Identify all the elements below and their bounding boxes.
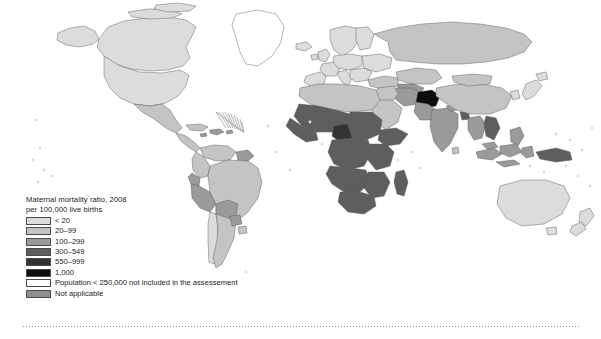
legend-item: 1,000 [26,268,326,278]
region-ireland [311,54,318,60]
region-horn-of-africa [378,128,408,146]
legend-item: 20–99 [26,226,326,236]
legend-swatch [26,227,51,235]
region-venezuela [200,145,236,161]
map-figure: Maternal mortality ratio, 2008 per 100,0… [0,0,601,339]
region-indonesia-sulawesi [521,146,534,158]
region-australia [497,180,570,226]
legend-swatch [26,290,51,298]
legend-swatch [26,269,51,277]
region-kazakhstan [396,68,442,84]
legend-swatch [26,238,51,246]
region-japan [522,80,542,100]
region-central-america [176,133,200,152]
region-russia [374,22,532,64]
region-korea [510,90,520,100]
legend-item-label: 550–999 [55,258,85,266]
region-sri-lanka [452,147,459,154]
region-indonesia-sumatra [476,148,502,160]
region-papua-new-guinea [536,148,572,162]
legend-item-label: Population < 250,000 not included in the… [55,279,238,287]
legend-item-label: < 20 [55,217,70,225]
region-iceland [296,42,312,51]
region-india [430,108,458,152]
region-tasmania [546,227,557,235]
legend-item: Population < 250,000 not included in the… [26,278,326,288]
legend-swatch [26,217,51,225]
region-angola-zambia [326,166,370,192]
legend-item-label: 1,000 [55,269,74,277]
map-legend: Maternal mortality ratio, 2008 per 100,0… [26,195,326,299]
legend-item-label: Not applicable [55,290,103,298]
region-philippines [510,127,524,146]
region-jamaica [200,133,207,137]
region-east-africa [368,144,394,170]
region-cuba [186,124,208,131]
footer-dotted-rule [22,326,580,327]
legend-title-line-1: Maternal mortality ratio, 2008 [26,195,326,205]
region-alaska [57,26,99,47]
region-myanmar-thailand [468,116,486,140]
legend-item-label: 20–99 [55,227,76,235]
legend-item: 550–999 [26,257,326,267]
region-sudan-chad [348,112,382,140]
region-scandinavia [330,26,360,56]
region-mexico [134,104,182,133]
legend-items: < 20 20–99 100–299 300–549 550–999 1,000 [26,216,326,299]
region-south-africa [338,192,376,214]
legend-item-label: 100–299 [55,238,85,246]
region-central-africa [328,138,372,170]
region-guianas [236,150,254,161]
region-puerto-rico [226,130,233,134]
legend-title-line-2: per 100,000 live births [26,205,326,215]
region-finland [356,27,374,50]
region-japan-north [536,72,548,81]
region-laos-vietnam [484,116,500,140]
region-united-kingdom [318,49,330,62]
region-madagascar [394,170,408,196]
legend-item: Not applicable [26,288,326,298]
region-indonesia-borneo [500,144,522,157]
legend-item: 300–549 [26,247,326,257]
legend-item: 100–299 [26,236,326,246]
region-greenland [232,10,284,66]
legend-swatch [26,248,51,256]
region-indonesia-java [496,160,520,167]
legend-item: < 20 [26,216,326,226]
legend-swatch [26,279,51,287]
legend-swatch [26,258,51,266]
legend-item-label: 300–549 [55,248,85,256]
region-hispaniola [210,129,224,135]
